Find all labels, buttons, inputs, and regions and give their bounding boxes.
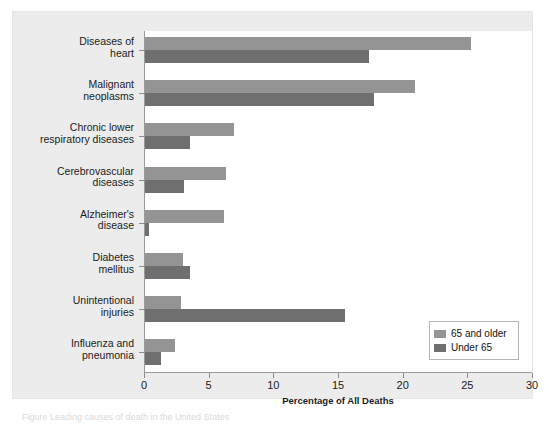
y-axis-label: Alzheimer's disease bbox=[18, 209, 134, 232]
bar-older bbox=[145, 253, 183, 266]
y-axis-label: Diabetes mellitus bbox=[18, 252, 134, 275]
x-axis-tick-label: 25 bbox=[447, 379, 487, 391]
legend-item-under: Under 65 bbox=[434, 341, 513, 354]
figure-caption-fragment: Figure Leading causes of death in the Un… bbox=[22, 412, 442, 424]
y-axis-label: Cerebrovascular diseases bbox=[18, 166, 134, 189]
x-axis-tick bbox=[338, 373, 339, 378]
x-axis-tick bbox=[403, 373, 404, 378]
bar-under bbox=[145, 50, 369, 63]
bar-older bbox=[145, 339, 175, 352]
y-axis-label: Unintentional injuries bbox=[18, 295, 134, 318]
x-axis-tick-label: 5 bbox=[189, 379, 229, 391]
chart-panel: Diseases of heartMalignant neoplasmsChro… bbox=[12, 11, 533, 399]
x-axis-title: Percentage of All Deaths bbox=[144, 395, 532, 406]
bar-older bbox=[145, 37, 471, 50]
bar-older bbox=[145, 123, 234, 136]
x-axis-tick bbox=[467, 373, 468, 378]
y-axis-labels: Diseases of heartMalignant neoplasmsChro… bbox=[13, 12, 134, 400]
y-axis-label: Diseases of heart bbox=[18, 36, 134, 59]
bar-older bbox=[145, 296, 181, 309]
y-axis-label: Malignant neoplasms bbox=[18, 79, 134, 102]
bar-older bbox=[145, 167, 226, 180]
bar-under bbox=[145, 180, 184, 193]
figure-container: Diseases of heartMalignant neoplasmsChro… bbox=[0, 0, 549, 425]
x-axis-tick-label: 10 bbox=[253, 379, 293, 391]
chart-legend: 65 and older Under 65 bbox=[429, 321, 519, 360]
x-axis-tick-label: 0 bbox=[124, 379, 164, 391]
y-axis-label: Chronic lower respiratory diseases bbox=[18, 122, 134, 145]
legend-item-older: 65 and older bbox=[434, 327, 513, 340]
bar-under bbox=[145, 352, 161, 365]
bar-under bbox=[145, 223, 149, 236]
legend-label-older: 65 and older bbox=[451, 328, 507, 339]
x-axis-tick bbox=[209, 373, 210, 378]
x-axis-tick-label: 30 bbox=[512, 379, 549, 391]
x-axis-tick-label: 15 bbox=[318, 379, 358, 391]
legend-swatch-older-icon bbox=[434, 330, 446, 338]
legend-swatch-under-icon bbox=[434, 344, 446, 352]
x-axis-tick-label: 20 bbox=[383, 379, 423, 391]
x-axis-tick bbox=[273, 373, 274, 378]
bar-under bbox=[145, 309, 345, 322]
y-axis-label: Influenza and pneumonia bbox=[18, 338, 134, 361]
x-axis-tick bbox=[532, 373, 533, 378]
x-axis-tick bbox=[144, 373, 145, 378]
bar-under bbox=[145, 136, 190, 149]
legend-label-under: Under 65 bbox=[451, 342, 492, 353]
bar-under bbox=[145, 266, 190, 279]
bar-under bbox=[145, 93, 374, 106]
bar-older bbox=[145, 210, 224, 223]
bar-older bbox=[145, 80, 415, 93]
